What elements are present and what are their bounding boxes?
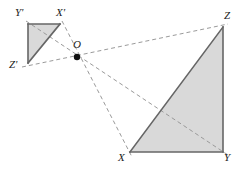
point-marker-O [74,54,80,60]
vertex-label-Yp: Y' [15,7,23,18]
geometry-figure: Y'X'Z'OZXY [0,0,236,170]
marked-points [74,54,80,60]
vertex-label-O: O [73,39,81,50]
vertex-label-Zp: Z' [9,59,17,70]
vertex-label-Xp: X' [56,7,65,18]
shaded-regions [28,24,223,152]
vertex-label-Y: Y [224,152,230,163]
vertex-label-X: X [118,152,125,163]
geometry-canvas [0,0,236,170]
vertex-label-Z: Z [224,10,230,21]
